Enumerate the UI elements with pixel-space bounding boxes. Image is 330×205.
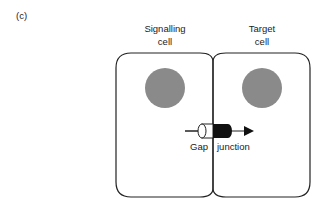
gap-label: Gap (190, 140, 208, 153)
arrowhead-icon (244, 126, 254, 136)
channel-opening (198, 124, 206, 138)
signalling-cell-nucleus (145, 68, 185, 108)
channel-end-right (224, 124, 232, 138)
gap-junction-diagram (0, 0, 330, 205)
junction-label: junction (217, 140, 250, 153)
target-cell-nucleus (242, 68, 282, 108)
